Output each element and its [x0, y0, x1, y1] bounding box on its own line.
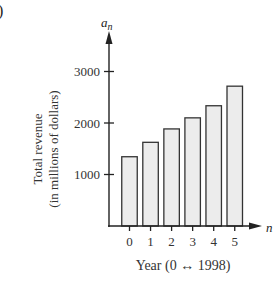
x-axis-arrow-icon [249, 223, 262, 230]
svg-text:Total revenue: Total revenue [30, 113, 45, 184]
bars [122, 86, 243, 226]
x-tick-label: 0 [126, 234, 133, 249]
bar-4 [206, 106, 222, 226]
y-tick-label: 3000 [74, 64, 100, 79]
x-axis-symbol: n [266, 220, 273, 235]
bar-2 [164, 129, 180, 226]
x-tick-label: 4 [210, 234, 217, 249]
panel-label: ) [0, 2, 3, 20]
bar-chart: ) an Total revenue (in millions of dolla… [0, 0, 280, 293]
x-tick-label: 1 [147, 234, 154, 249]
y-axis-label: Total revenue (in millions of dollars) [30, 90, 61, 207]
x-tick-label: 2 [168, 234, 175, 249]
svg-text:(in millions of dollars): (in millions of dollars) [46, 90, 61, 207]
bar-0 [122, 157, 138, 226]
y-axis-arrow-icon [106, 31, 113, 44]
y-tick-label: 1000 [74, 167, 100, 182]
x-axis-label: Year (0 ↔ 1998) [136, 258, 231, 274]
y-axis-ticks: 100020003000 [74, 64, 114, 182]
y-tick-label: 2000 [74, 116, 100, 131]
x-axis-ticks: 012345 [126, 226, 238, 249]
x-tick-label: 5 [232, 234, 239, 249]
y-axis-symbol: an [101, 15, 113, 32]
bar-3 [185, 118, 201, 226]
bar-5 [227, 86, 243, 226]
x-tick-label: 3 [189, 234, 196, 249]
bar-1 [143, 142, 159, 226]
